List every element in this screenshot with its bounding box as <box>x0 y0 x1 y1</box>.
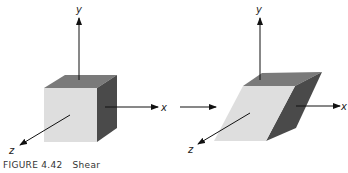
y-axis-label: y <box>255 4 263 15</box>
figure-caption: FIGURE 4.42Shear <box>3 160 100 170</box>
figure-number: FIGURE 4.42 <box>3 160 63 170</box>
x-axis-label: x <box>160 102 167 113</box>
original-cube <box>44 75 117 142</box>
z-axis-label: z <box>187 144 194 155</box>
figure-title: Shear <box>73 160 101 170</box>
y-axis-label: y <box>75 4 83 15</box>
x-axis-label: x <box>340 101 347 112</box>
shear-diagram: y x z y x z <box>0 0 348 173</box>
cube-front-face <box>44 88 97 142</box>
z-axis-label: z <box>8 145 15 156</box>
